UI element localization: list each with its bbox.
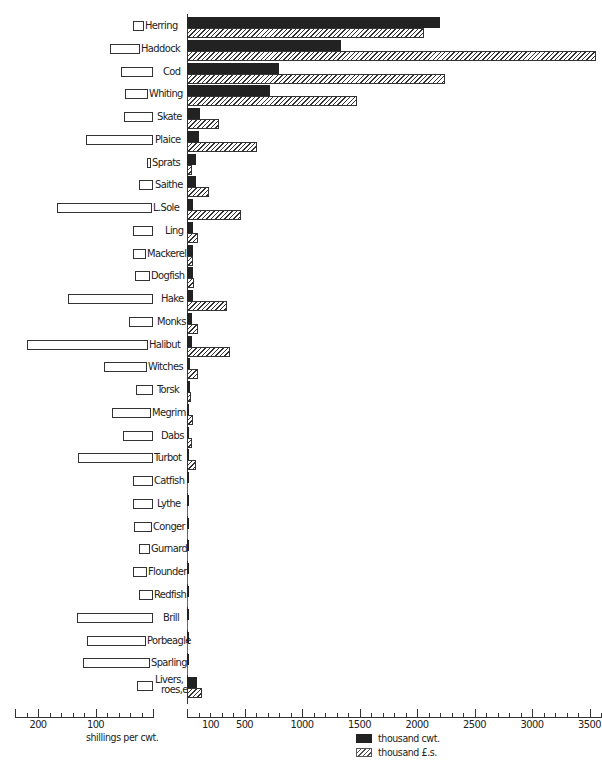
value-bar	[187, 74, 445, 84]
right-axis-tick-label: 3500	[578, 718, 601, 731]
left-axis-tick	[50, 713, 51, 718]
category-label: Herring	[145, 20, 178, 32]
chart-row: Catfish	[0, 471, 602, 494]
category-label: Turbot	[154, 452, 181, 464]
right-axis-tick	[567, 713, 568, 718]
chart-row: Whiting	[0, 84, 602, 107]
right-axis-tick	[279, 713, 280, 718]
right-axis-tick	[532, 709, 533, 718]
chart-row: Cod	[0, 62, 602, 85]
right-axis-tick-label: 3000	[521, 718, 544, 731]
price-bar	[121, 67, 153, 77]
value-bar	[187, 301, 227, 311]
price-bar	[110, 44, 140, 54]
left-axis-tick	[61, 713, 62, 718]
legend-swatch-cwt	[356, 734, 372, 743]
left-axis-tick-label: 200	[29, 718, 46, 731]
chart-row: Hake	[0, 289, 602, 312]
chart-row: Saithe	[0, 175, 602, 198]
quantity-bar	[187, 472, 189, 483]
price-bar	[83, 658, 150, 668]
category-label: Dogfish	[151, 270, 184, 282]
category-label: Haddock	[141, 43, 180, 55]
value-bar	[187, 392, 191, 402]
price-bar	[134, 522, 152, 532]
left-axis-title: shillings per cwt.	[86, 731, 158, 743]
left-axis-tick	[130, 713, 131, 718]
quantity-bar	[187, 313, 192, 324]
chart-row: Mackerel	[0, 244, 602, 267]
legend-label-cwt: thousand cwt.	[378, 732, 440, 744]
left-axis-tick	[119, 713, 120, 718]
chart-row: Dogfish	[0, 266, 602, 289]
value-bar	[187, 665, 188, 675]
category-label: Witches	[148, 361, 183, 373]
price-bar	[68, 294, 153, 304]
value-bar	[187, 324, 198, 334]
left-axis-tick	[27, 713, 28, 718]
quantity-bar	[187, 290, 193, 301]
right-axis-tick	[302, 709, 303, 718]
category-label: Hake	[161, 293, 184, 305]
right-axis-tick	[233, 713, 234, 718]
quantity-bar	[187, 108, 200, 119]
right-axis-tick	[337, 713, 338, 718]
quantity-bar	[187, 131, 199, 142]
right-axis-tick	[509, 713, 510, 718]
left-axis-tick	[153, 709, 154, 718]
chart-row: Lythe	[0, 494, 602, 517]
price-bar	[136, 385, 153, 395]
left-axis-tick	[107, 713, 108, 718]
quantity-bar	[187, 381, 190, 392]
quantity-bar	[187, 85, 270, 96]
quantity-bar	[187, 654, 189, 665]
value-bar	[187, 278, 194, 288]
category-label: Sparling	[151, 657, 187, 669]
left-axis-tick	[15, 709, 16, 718]
right-axis-tick	[544, 713, 545, 718]
right-axis-tick-label: 2500	[463, 718, 486, 731]
chart-row: Brill	[0, 608, 602, 631]
right-axis-tick-label: 100	[202, 718, 219, 731]
category-label: Brill	[163, 612, 179, 624]
category-label: Whiting	[149, 88, 183, 100]
right-axis-tick	[256, 713, 257, 718]
quantity-bar	[187, 176, 196, 187]
chart-row: Sparling	[0, 653, 602, 676]
right-axis-tick	[475, 709, 476, 718]
chart-row: Ling	[0, 221, 602, 244]
price-bar	[133, 21, 144, 31]
category-label: Torsk	[157, 384, 179, 396]
price-bar	[133, 249, 146, 259]
fish-landings-chart: HerringHaddockCodWhitingSkatePlaiceSprat…	[0, 0, 602, 763]
value-bar	[187, 483, 188, 493]
value-bar	[187, 643, 188, 653]
category-label: Monks	[157, 316, 186, 328]
value-bar	[187, 688, 202, 698]
price-bar	[139, 590, 153, 600]
right-axis-tick	[498, 713, 499, 718]
value-bar	[187, 187, 209, 197]
chart-row: Gurnard	[0, 539, 602, 562]
chart-row: Porbeagle	[0, 631, 602, 654]
quantity-bar	[187, 199, 193, 210]
right-axis-tick	[371, 713, 372, 718]
quantity-bar	[187, 427, 189, 438]
chart-row: Plaice	[0, 130, 602, 153]
value-bar	[187, 506, 188, 516]
chart-row: Herring	[0, 16, 602, 39]
value-bar	[187, 51, 596, 61]
right-axis-tick	[417, 709, 418, 718]
category-label: Porbeagle	[147, 635, 191, 647]
right-axis-tick	[222, 713, 223, 718]
chart-row: Skate	[0, 107, 602, 130]
value-bar	[187, 210, 241, 220]
value-bar	[187, 460, 196, 470]
chart-row: Conger	[0, 517, 602, 540]
left-axis-tick	[73, 713, 74, 718]
legend-swatch-value	[356, 748, 372, 757]
quantity-bar	[187, 40, 341, 51]
value-bar	[187, 96, 357, 106]
price-bar	[77, 613, 153, 623]
value-bar	[187, 415, 193, 425]
